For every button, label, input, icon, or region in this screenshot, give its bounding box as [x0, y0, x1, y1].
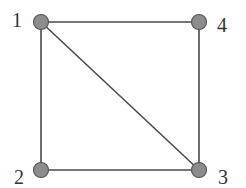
node-1: [34, 15, 49, 30]
node-2: [34, 163, 49, 178]
node-label-2: 2: [14, 166, 24, 188]
graph-labels: 1234: [12, 9, 228, 188]
node-label-4: 4: [217, 14, 227, 36]
node-label-1: 1: [12, 9, 22, 31]
node-4: [192, 15, 207, 30]
node-label-3: 3: [218, 166, 228, 188]
edge-1-3: [41, 22, 199, 170]
graph-edges: [41, 22, 199, 170]
node-3: [192, 163, 207, 178]
graph-diagram: 1234: [0, 0, 246, 188]
